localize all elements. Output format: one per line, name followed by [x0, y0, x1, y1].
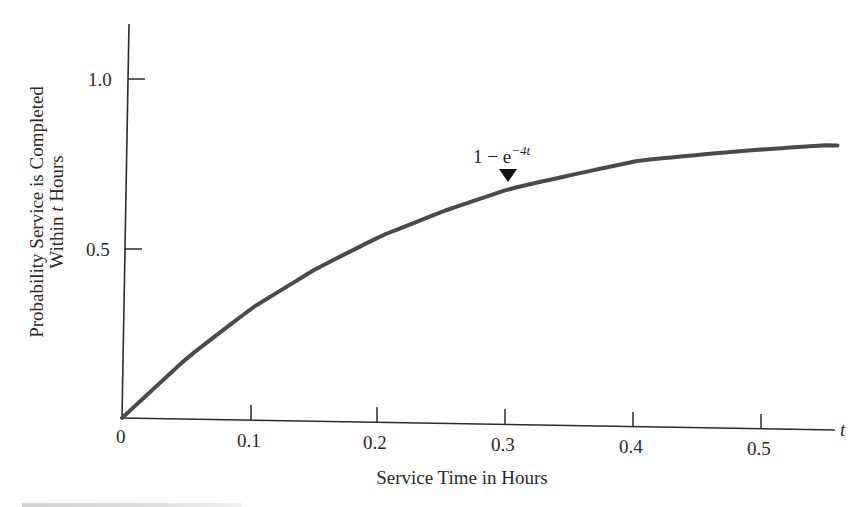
y-axis-title-line1: Probability Service is Completed [26, 86, 47, 338]
y-axis-title: Probability Service is Completed Within … [26, 86, 67, 338]
x-axis-variable: t [840, 419, 846, 440]
axes [122, 24, 835, 430]
y-axis-title-line2: Within t Hours [46, 155, 67, 268]
y-tick-labels: 1.0 0.5 [86, 69, 112, 260]
y-axis-line [122, 24, 129, 418]
x-axis-title: Service Time in Hours [376, 467, 548, 488]
x-tick-label-0: 0 [116, 426, 126, 447]
x-tick-label-0.3: 0.3 [491, 434, 515, 455]
curve-annotation: 1 − e−4t [473, 143, 530, 182]
clipped-caption-fragment [22, 503, 242, 507]
x-tick-label-0.1: 0.1 [237, 430, 261, 451]
y-tick-label-1.0: 1.0 [88, 69, 112, 90]
x-axis-line [122, 418, 835, 430]
annotation-label: 1 − e−4t [473, 143, 530, 167]
x-tick-label-0.4: 0.4 [619, 436, 643, 457]
y-tick-label-0.5: 0.5 [86, 239, 110, 260]
x-tick-label-0.2: 0.2 [363, 432, 387, 453]
x-tick-label-0.5: 0.5 [747, 438, 771, 459]
chart-canvas: 1.0 0.5 0 0.1 0.2 0.3 0.4 0.5 t Service … [0, 0, 866, 507]
series-line-1-minus-e-4t [122, 145, 838, 418]
x-tick-labels: 0 0.1 0.2 0.3 0.4 0.5 [116, 426, 771, 459]
down-triangle-marker-icon [499, 169, 517, 182]
